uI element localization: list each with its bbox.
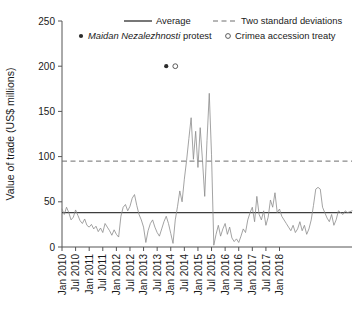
y-axis-tick-label: 150: [38, 106, 55, 117]
crimea-treaty-marker: [173, 64, 178, 69]
x-axis-tick-label: Jul 2012: [125, 254, 136, 292]
x-axis-tick-label: Jul 2013: [152, 254, 163, 292]
legend-crimea-swatch: [226, 34, 231, 39]
x-axis-tick-label: Jan 2015: [193, 254, 204, 296]
y-axis-tick-label: 250: [38, 16, 55, 27]
legend-maidan-swatch: [79, 34, 83, 38]
legend-maidan-label-plain: protest: [183, 30, 212, 41]
y-axis-tick-label: 100: [38, 151, 55, 162]
x-axis-tick-label: Jan 2011: [84, 254, 95, 295]
chart-canvas: 050100150200250Value of trade (US$ milli…: [0, 0, 361, 316]
x-axis-tick-label: Jul 2016: [233, 254, 244, 292]
x-axis-tick-label: Jan 2018: [274, 254, 285, 296]
trade-value-series: [62, 93, 352, 245]
x-axis-tick-label: Jan 2012: [111, 254, 122, 296]
y-axis-title: Value of trade (US$ millions): [4, 68, 16, 201]
y-axis-tick-label: 0: [49, 242, 55, 253]
x-axis-tick-label: Jan 2014: [165, 254, 176, 296]
x-axis-tick-label: Jan 2013: [138, 254, 149, 296]
x-axis-tick-label: Jan 2016: [220, 254, 231, 296]
trade-value-line-chart: 050100150200250Value of trade (US$ milli…: [0, 0, 361, 316]
x-axis-tick-label: Jul 2011: [97, 254, 108, 292]
x-axis-tick-label: Jul 2014: [179, 254, 190, 292]
legend-crimea-label: Crimea accession treaty: [235, 30, 336, 41]
y-axis-tick-label: 200: [38, 61, 55, 72]
legend-maidan-label-italic: Maidan Nezalezhnosti: [88, 30, 181, 41]
legend-two-sd-label: Two standard deviations: [241, 15, 342, 26]
maidan-protest-marker: [164, 64, 168, 68]
x-axis-tick-label: Jul 2017: [261, 254, 272, 292]
x-axis-tick-label: Jan 2010: [57, 254, 68, 296]
x-axis-tick-label: Jan 2017: [247, 254, 258, 296]
x-axis-tick-label: Jul 2010: [70, 254, 81, 292]
y-axis-tick-label: 50: [44, 196, 56, 207]
x-axis-tick-label: Jul 2015: [206, 254, 217, 292]
legend-average-label: Average: [156, 15, 191, 26]
